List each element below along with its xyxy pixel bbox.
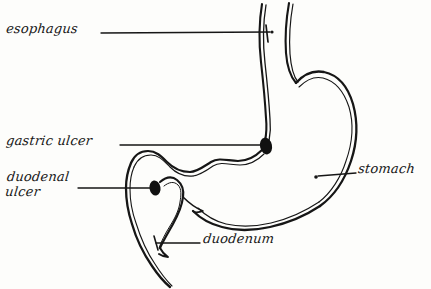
esophagus-shape <box>260 3 298 141</box>
stomach-leader <box>314 173 356 179</box>
label-gastric-ulcer: gastric ulcer <box>5 134 93 149</box>
leader-lines-group <box>78 25 356 250</box>
esophagus-leader <box>101 25 274 42</box>
label-stomach: stomach <box>357 162 415 177</box>
label-duodenal-ulcer-line2: ulcer <box>4 185 68 200</box>
label-duodenal-ulcer-line1: duodenal <box>6 170 70 185</box>
duodenum-shape <box>126 163 203 287</box>
diagram-canvas: esophagus gastric ulcer duodenal ulcer d… <box>0 0 431 289</box>
label-duodenal-ulcer: duodenal ulcer <box>4 170 70 200</box>
label-esophagus: esophagus <box>5 22 78 37</box>
stomach-outline <box>131 72 356 230</box>
label-duodenum: duodenum <box>202 232 275 247</box>
